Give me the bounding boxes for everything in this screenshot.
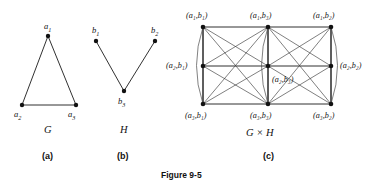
graph-vertex-a3b3 <box>266 102 271 107</box>
vertex-label-a2b3: (a₂,b₃) <box>272 76 293 84</box>
graph-vertex-b3 <box>122 89 126 93</box>
graph-edge <box>22 36 48 105</box>
graph-vertex-a3b2 <box>329 102 334 107</box>
graph-vertex-b2 <box>153 39 157 43</box>
panel-tag-a: (a) <box>42 152 53 161</box>
vertex-label-a2: a2 <box>14 110 21 121</box>
graph-vertex-a2 <box>20 103 24 107</box>
panel-tag-c: (c) <box>263 152 274 161</box>
graph-vertex-b1 <box>94 39 98 43</box>
graph-vertex-a1 <box>46 34 50 38</box>
graph-vertex-a2b1 <box>201 64 206 69</box>
graph-g-name: G <box>44 125 52 136</box>
vertex-label-a1: a1 <box>44 22 51 33</box>
vertex-label-b2: b2 <box>151 26 158 37</box>
graph-vertex-a1b1 <box>201 25 206 30</box>
vertex-label-a1b3: (a₁,b₃) <box>250 12 271 20</box>
panel-tag-b: (b) <box>117 152 129 161</box>
figure-caption: Figure 9-5 <box>161 171 202 180</box>
graph-vertex-a2b2 <box>329 64 334 69</box>
vertex-label-a1b2: (a₁,b₂) <box>313 12 334 20</box>
graph-vertex-a3 <box>74 103 78 107</box>
graph-vertex-a2b3 <box>266 64 271 69</box>
graph-edge <box>96 41 124 91</box>
vertex-label-a3b1: (a₃,b₁) <box>185 112 206 120</box>
vertex-label-a3: a3 <box>68 110 75 121</box>
vertex-label-b1: b1 <box>92 26 99 37</box>
vertex-label-a2b2: (a₂,b₂) <box>340 62 361 70</box>
graph-vertex-a1b2 <box>329 25 334 30</box>
graph-vertex-a3b1 <box>201 102 206 107</box>
vertex-label-a2b1: (a₂,b₁) <box>166 62 187 70</box>
graph-h-name: H <box>120 125 128 136</box>
graph-vertex-a1b3 <box>266 25 271 30</box>
vertex-label-a3b3: (a₃,b₃) <box>250 112 271 120</box>
graph-edge <box>124 41 155 91</box>
vertex-label-a1b1: (a₁,b₁) <box>186 12 207 20</box>
vertex-label-b3: b3 <box>118 97 125 108</box>
vertex-label-a3b2: (a₃,b₂) <box>313 112 334 120</box>
graph-edge <box>48 36 76 105</box>
figure-9-5: a1 a2 a3 G (a) b1 b2 b3 H (b) (a₁,b₁) (a… <box>0 0 387 186</box>
graph-product-name: G × H <box>246 128 274 139</box>
